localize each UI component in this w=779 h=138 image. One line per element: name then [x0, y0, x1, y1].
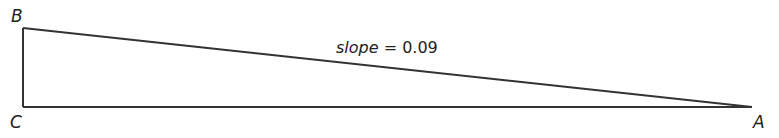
slope-label: slope = 0.09 [336, 40, 438, 56]
vertex-label-b: B [11, 8, 23, 25]
vertex-label-c: C [10, 114, 22, 131]
triangle-diagram: B C A slope = 0.09 [0, 0, 779, 138]
triangle-shape [0, 0, 779, 138]
slope-variable: slope [336, 38, 379, 57]
vertex-label-a: A [753, 114, 765, 131]
slope-value: 0.09 [402, 38, 438, 57]
slope-operator: = [379, 38, 403, 57]
